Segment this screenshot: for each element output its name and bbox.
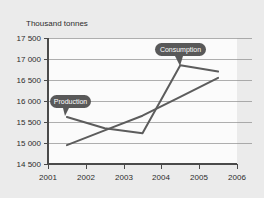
x-tick-label-2006: 2006 — [228, 173, 246, 182]
y-axis-title: Thousand tonnes — [26, 19, 88, 28]
y-tick-label-16500: 16 500 — [17, 76, 42, 85]
y-tick-label-15500: 15 500 — [17, 118, 42, 127]
x-tick-label-2001: 2001 — [39, 173, 57, 182]
line-chart: Thousand tonnes 17 500 17 000 16 500 16 … — [0, 0, 264, 198]
callout-consumption-label: Consumption — [160, 46, 201, 54]
x-tick-label-2004: 2004 — [152, 173, 170, 182]
callout-production-label: Production — [54, 98, 88, 105]
y-tick-label-15000: 15 000 — [17, 139, 42, 148]
x-tick-label-2003: 2003 — [115, 173, 133, 182]
y-tick-label-16000: 16 000 — [17, 97, 42, 106]
x-tick-label-2005: 2005 — [190, 173, 208, 182]
y-tick-label-17000: 17 000 — [17, 55, 42, 64]
x-tick-label-2002: 2002 — [77, 173, 95, 182]
y-tick-label-14500: 14 500 — [17, 160, 42, 169]
y-tick-label-17500: 17 500 — [17, 34, 42, 43]
chart-container: Thousand tonnes 17 500 17 000 16 500 16 … — [0, 0, 264, 198]
